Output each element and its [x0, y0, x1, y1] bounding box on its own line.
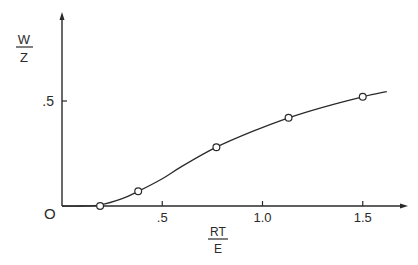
- origin-label: O: [44, 205, 56, 222]
- data-point-marker: [285, 114, 292, 121]
- data-markers: [97, 93, 366, 209]
- y-tick-label: .5: [42, 93, 54, 109]
- data-point-marker: [97, 203, 104, 210]
- x-tick-label: .5: [157, 210, 168, 225]
- axes: [60, 12, 409, 209]
- y-ticks: .5: [42, 93, 67, 109]
- y-axis-label: W Z: [16, 32, 33, 65]
- data-point-marker: [359, 93, 366, 100]
- y-label-numerator: W: [18, 32, 31, 47]
- chart: .51.01.5 .5 O W Z RT E: [0, 0, 418, 265]
- fitted-curve: [62, 92, 387, 207]
- x-tick-label: 1.5: [354, 210, 372, 225]
- y-label-denominator: Z: [20, 50, 28, 65]
- data-point-marker: [135, 188, 142, 195]
- x-ticks: .51.01.5: [157, 201, 372, 225]
- y-axis-arrow-icon: [60, 12, 65, 20]
- x-axis-arrow-icon: [400, 204, 408, 209]
- data-point-marker: [213, 144, 220, 151]
- x-label-numerator: RT: [210, 225, 226, 239]
- x-tick-label: 1.0: [253, 210, 271, 225]
- x-axis-label: RT E: [208, 225, 228, 256]
- x-label-denominator: E: [214, 242, 222, 256]
